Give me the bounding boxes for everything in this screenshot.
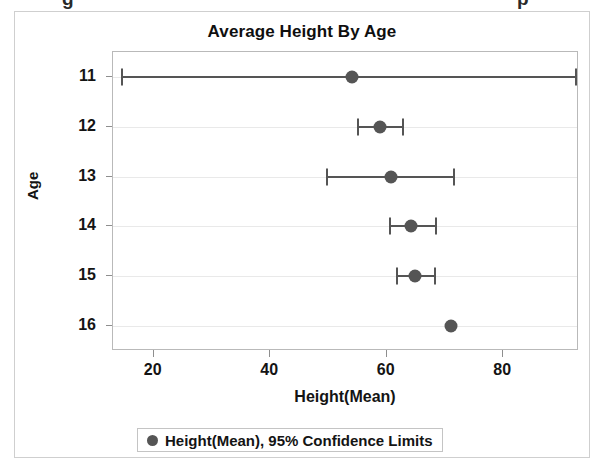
x-tick-mark [386, 350, 387, 357]
legend-marker-icon [147, 435, 158, 446]
error-bar-cap [396, 268, 398, 285]
y-tick-label: 12 [56, 117, 96, 135]
data-point-marker[interactable] [404, 220, 417, 233]
x-tick-label: 60 [377, 361, 395, 379]
x-tick-mark [269, 350, 270, 357]
legend-label: Height(Mean), 95% Confidence Limits [165, 432, 433, 449]
plot-inner [113, 52, 577, 349]
error-bar-cap [453, 168, 455, 185]
error-bar-cap [575, 68, 577, 85]
error-bar-cap [434, 268, 436, 285]
gridline-y [113, 127, 577, 128]
clipped-glyph-right: p [517, 0, 529, 10]
plot-area [112, 51, 578, 350]
error-bar-cap [357, 118, 359, 135]
error-bar-cap [435, 218, 437, 235]
legend[interactable]: Height(Mean), 95% Confidence Limits [137, 428, 443, 452]
data-point-marker[interactable] [408, 270, 421, 283]
x-tick-label: 20 [144, 361, 162, 379]
y-tick-label: 14 [56, 216, 96, 234]
gridline-y [113, 276, 577, 277]
data-point-marker[interactable] [444, 320, 457, 333]
clipped-glyph-left: g [62, 0, 74, 10]
error-bar-cap [121, 68, 123, 85]
y-axis-title: Age [24, 172, 41, 200]
data-point-marker[interactable] [385, 170, 398, 183]
error-bar-cap [326, 168, 328, 185]
data-point-marker[interactable] [373, 120, 386, 133]
x-tick-mark [153, 350, 154, 357]
y-tick-label: 11 [56, 67, 96, 85]
error-bar-cap [389, 218, 391, 235]
y-tick-label: 13 [56, 167, 96, 185]
data-point-marker[interactable] [346, 70, 359, 83]
gridline-y [113, 226, 577, 227]
x-tick-mark [502, 350, 503, 357]
y-tick-label: 16 [56, 316, 96, 334]
x-tick-label: 80 [493, 361, 511, 379]
error-bar-cap [402, 118, 404, 135]
chart-title: Average Height By Age [14, 22, 590, 42]
y-tick-label: 15 [56, 266, 96, 284]
x-tick-label: 40 [260, 361, 278, 379]
gridline-y [113, 326, 577, 327]
x-axis-title: Height(Mean) [112, 388, 578, 406]
